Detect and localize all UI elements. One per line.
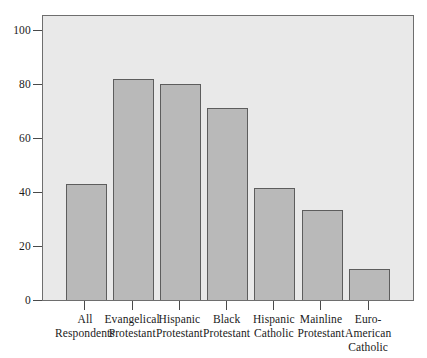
bar	[349, 269, 390, 300]
y-axis-label: 20	[0, 241, 31, 253]
bar	[254, 188, 295, 300]
y-axis-label: 100	[0, 25, 31, 37]
x-axis-tick	[273, 301, 274, 310]
x-axis-tick	[179, 301, 180, 310]
x-axis-tick	[226, 301, 227, 310]
x-axis-tick	[84, 301, 85, 310]
y-axis-label: 40	[0, 187, 31, 199]
plot-area	[42, 15, 414, 301]
bar	[302, 210, 343, 300]
x-axis-tick	[320, 301, 321, 310]
x-axis-label: Euro- American Catholic	[329, 312, 407, 355]
bar	[160, 84, 201, 300]
x-axis-tick	[132, 301, 133, 310]
bar-chart: 020406080100 All RespondentsEvangelical …	[0, 0, 427, 358]
y-axis-label: 80	[0, 79, 31, 91]
bar	[207, 108, 248, 300]
y-axis-label: 0	[0, 295, 31, 307]
bars-layer	[43, 16, 413, 300]
bar	[66, 184, 107, 300]
bar	[113, 79, 154, 300]
y-axis-label: 60	[0, 133, 31, 145]
x-axis-tick	[368, 301, 369, 310]
